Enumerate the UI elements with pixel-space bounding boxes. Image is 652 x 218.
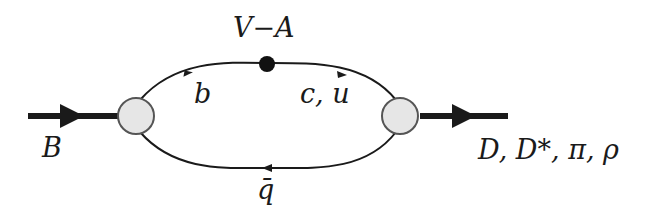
diagram-graphics — [0, 0, 652, 218]
antiquark-arrow-icon — [262, 164, 272, 172]
incoming-arrow-icon — [60, 104, 84, 128]
left-blob — [118, 98, 154, 134]
vertex-dot — [259, 56, 275, 72]
antiquark-label: q̄ — [257, 176, 274, 203]
incoming-label: B — [42, 134, 62, 161]
right-blob — [382, 98, 418, 134]
outgoing-label: D, D*, π, ρ — [478, 136, 619, 163]
quark-b-label: b — [194, 80, 211, 107]
lower-antiquark-line — [140, 132, 396, 168]
feynman-diagram: B V−A b c, u q̄ D, D*, π, ρ — [0, 0, 652, 218]
outgoing-arrow-icon — [452, 104, 476, 128]
vertex-label: V−A — [233, 14, 295, 41]
quark-cu-arrow-icon — [337, 71, 347, 78]
quark-cu-label: c, u — [300, 80, 350, 107]
